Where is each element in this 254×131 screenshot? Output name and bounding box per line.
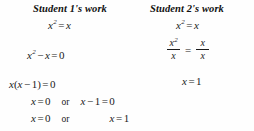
left-l5-equals-2: =: [114, 112, 123, 124]
left-l4-or: or: [62, 97, 70, 107]
right-line-2-fraction-equation: x2 x = x x: [167, 38, 209, 61]
left-l5-equals-1: =: [36, 112, 45, 124]
fraction-equals: =: [180, 44, 196, 56]
left-l3-equals: =: [41, 78, 50, 90]
left-l4-minus: −: [85, 95, 94, 107]
left-l4-zero-1: 0: [45, 95, 51, 107]
left-line-5-solutions: x=0orx=1: [31, 113, 129, 125]
column-header-student-1: Student 1's work: [33, 3, 107, 14]
left-l5-or: or: [62, 114, 70, 124]
fraction-left: x2 x: [167, 38, 180, 61]
left-line-3-factored: x(x−1)=0: [9, 79, 56, 90]
left-l4-zero-2: 0: [109, 95, 115, 107]
fraction-right-denominator: x: [198, 51, 206, 61]
left-l2-minus: −: [36, 49, 45, 61]
fraction-left-denominator: x: [169, 51, 177, 61]
left-l2-equals: =: [50, 49, 59, 61]
left-l5-one: 1: [124, 112, 130, 124]
right-line-3-solution: x=1: [182, 76, 202, 87]
left-l3-zero: 0: [50, 78, 56, 90]
left-l4-equals-2: =: [100, 95, 109, 107]
left-l1-equals: =: [57, 19, 66, 31]
frac-l-num-exponent: 2: [174, 36, 178, 44]
fraction-right-numerator: x: [198, 38, 206, 48]
left-l2-zero: 0: [59, 49, 65, 61]
left-line-2-equation: x2−x=0: [27, 50, 65, 61]
right-r3-one: 1: [196, 75, 202, 87]
column-header-student-2: Student 2's work: [150, 3, 224, 14]
left-l3-minus: −: [22, 78, 31, 90]
left-line-1-equation: x2=x: [48, 20, 71, 31]
worksheet-canvas: Student 1's work x2=x x2−x=0 x(x−1)=0 x=…: [0, 0, 254, 131]
fraction-right: x x: [196, 38, 209, 61]
right-r3-equals: =: [187, 75, 196, 87]
right-line-1-equation: x2=x: [176, 20, 199, 31]
left-l4-equals-1: =: [36, 95, 45, 107]
right-r1-x2: x: [194, 19, 199, 31]
fraction-left-numerator: x2: [167, 38, 179, 48]
left-l5-zero: 0: [45, 112, 51, 124]
left-line-4-zero-product: x=0orx−1=0: [31, 96, 115, 108]
right-r1-equals: =: [185, 19, 194, 31]
left-l1-x2: x: [66, 19, 71, 31]
